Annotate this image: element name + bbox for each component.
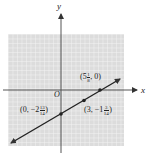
point-x-intercept [98, 88, 102, 92]
fraction: 1314 [40, 105, 45, 116]
x-axis-label: x [141, 86, 145, 95]
point-label-y-intercept: (0, −21314) [20, 105, 48, 116]
point-y-intercept [59, 112, 63, 116]
point-label-3: (3, −1314) [84, 105, 112, 116]
y-axis-label: y [57, 2, 61, 11]
origin-label: O [54, 91, 60, 99]
point-3 [82, 99, 86, 103]
fraction: 314 [104, 105, 109, 116]
point-label-x-intercept: (518, 0) [80, 72, 101, 83]
coordinate-plane [0, 0, 156, 161]
